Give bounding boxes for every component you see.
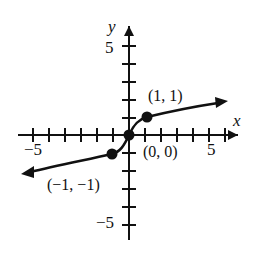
x-axis-label: x — [233, 112, 241, 129]
curve-left-arrowhead — [21, 166, 34, 178]
point-1-1 — [142, 112, 153, 123]
point-label-0-0: (0, 0) — [143, 144, 178, 160]
curve-right-arrowhead — [215, 97, 228, 108]
point-origin — [124, 130, 135, 141]
y-axis-arrowhead — [124, 26, 134, 36]
coordinate-plane — [0, 0, 258, 254]
point-label-1-1: (1, 1) — [148, 88, 183, 104]
point-neg1-neg1 — [107, 149, 118, 160]
cube-root-curve — [30, 103, 218, 172]
point-label-neg1-neg1: (−1, −1) — [47, 177, 100, 193]
x-tick-label-5: 5 — [207, 141, 216, 158]
y-tick-label-5: 5 — [105, 39, 114, 56]
y-tick-label-minus-5: −5 — [96, 214, 114, 231]
x-axis-arrowhead — [228, 130, 238, 140]
y-axis-label: y — [108, 18, 116, 35]
graph-figure: y x 5 −5 −5 5 (1, 1) (0, 0) (−1, −1) — [0, 0, 258, 254]
x-tick-label-minus-5: −5 — [24, 141, 42, 158]
